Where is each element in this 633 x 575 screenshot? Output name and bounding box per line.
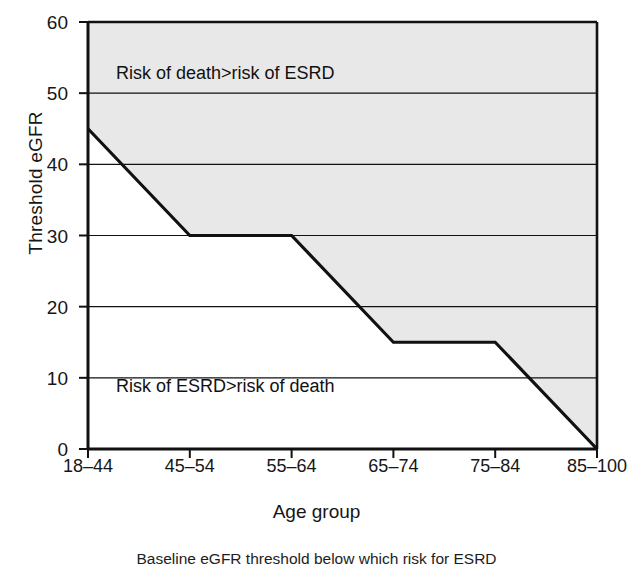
x-axis-tick-labels: 18–4445–5455–6465–7475–8485–100 bbox=[0, 457, 633, 487]
x-tick-label: 65–74 bbox=[368, 457, 418, 475]
x-tick-label: 18–44 bbox=[63, 457, 113, 475]
figure-caption: Baseline eGFR threshold below which risk… bbox=[0, 550, 633, 568]
x-tick-label: 85–100 bbox=[567, 457, 627, 475]
figure: Threshold eGFR 0102030405060 Risk of dea… bbox=[0, 0, 633, 575]
x-tick-label: 75–84 bbox=[470, 457, 520, 475]
annotation-risk-of-esrd: Risk of ESRD>risk of death bbox=[116, 376, 335, 396]
x-tick-label: 55–64 bbox=[267, 457, 317, 475]
x-tick-label: 45–54 bbox=[165, 457, 215, 475]
annotation-risk-of-death: Risk of death>risk of ESRD bbox=[116, 63, 335, 83]
x-axis-title: Age group bbox=[0, 501, 633, 523]
chart-plot-area: Risk of death>risk of ESRD Risk of ESRD>… bbox=[0, 0, 633, 470]
